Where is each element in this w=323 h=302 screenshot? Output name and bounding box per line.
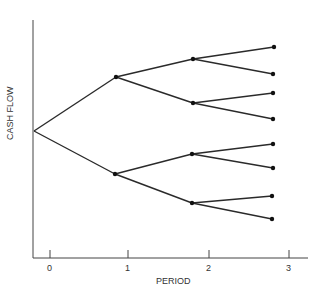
tree-branch bbox=[116, 77, 193, 103]
x-tick-label: 3 bbox=[286, 263, 291, 273]
tree-branch bbox=[193, 93, 273, 103]
tree-node bbox=[270, 194, 274, 198]
tree-branch bbox=[193, 103, 273, 119]
tree-node bbox=[191, 101, 195, 105]
x-tick-label: 2 bbox=[206, 263, 211, 273]
tree-branch bbox=[193, 59, 273, 74]
tree-branch bbox=[115, 174, 192, 203]
tree-node bbox=[271, 117, 275, 121]
tree-branch bbox=[116, 59, 193, 77]
tree-branch bbox=[192, 154, 273, 168]
tree-node bbox=[271, 91, 275, 95]
tree-node bbox=[270, 217, 274, 221]
x-axis-label: PERIOD bbox=[156, 276, 191, 286]
tree-node bbox=[271, 142, 275, 146]
tree-node bbox=[271, 72, 275, 76]
tree-node bbox=[191, 57, 195, 61]
x-tick-label: 1 bbox=[125, 263, 130, 273]
y-axis-label: CASH FLOW bbox=[5, 86, 15, 140]
tree-edges bbox=[34, 47, 274, 219]
tree-branch bbox=[192, 144, 273, 154]
tree-node bbox=[272, 45, 276, 49]
tree-node bbox=[190, 152, 194, 156]
tree-node bbox=[114, 75, 118, 79]
tree-branch bbox=[193, 47, 274, 59]
tree-node bbox=[271, 166, 275, 170]
tree-node bbox=[113, 172, 117, 176]
tree-node bbox=[190, 201, 194, 205]
tree-branch bbox=[34, 77, 116, 131]
tree-branch bbox=[115, 154, 192, 174]
cash-flow-tree-diagram bbox=[0, 0, 323, 302]
x-tick-label: 0 bbox=[47, 263, 52, 273]
axes bbox=[33, 20, 308, 258]
tree-nodes bbox=[113, 45, 276, 221]
tree-branch bbox=[34, 131, 115, 174]
tree-branch bbox=[192, 196, 272, 203]
tree-branch bbox=[192, 203, 272, 219]
